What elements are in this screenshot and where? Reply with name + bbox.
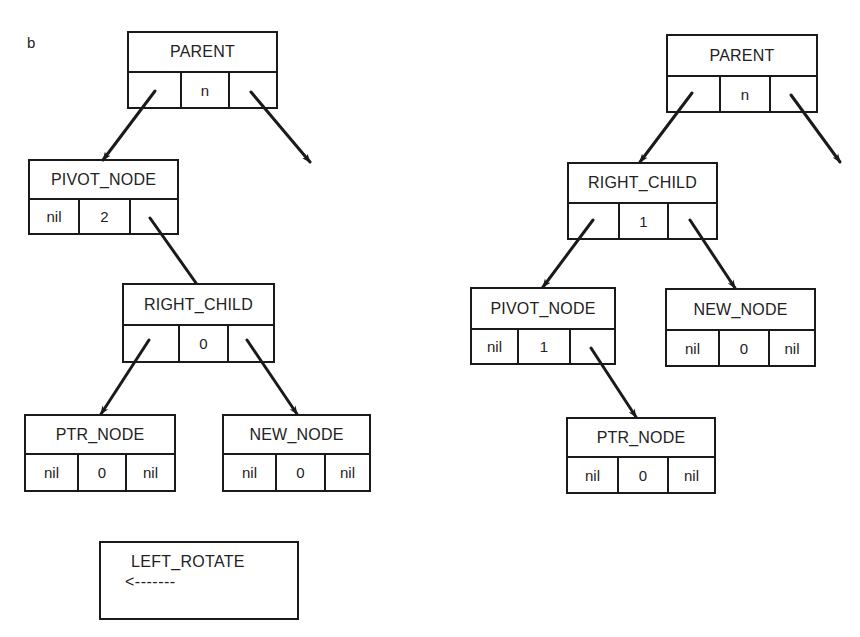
right-pointer-cell — [569, 330, 614, 363]
left-pointer-cell: nil — [26, 455, 77, 490]
balance-cell: 0 — [617, 458, 667, 492]
node-title: NEW_NODE — [224, 416, 369, 455]
right-pointer-cell: nil — [125, 455, 174, 490]
node-title: PTR_NODE — [568, 419, 714, 458]
after-ptr-node: PTR_NODE nil 0 nil — [566, 417, 716, 494]
right-pointer-cell — [227, 326, 273, 361]
node-title: PTR_NODE — [26, 416, 174, 455]
before-pivot-node: PIVOT_NODE nil 2 — [28, 159, 179, 235]
balance-cell: n — [719, 77, 769, 111]
right-pointer-cell — [769, 77, 816, 111]
after-parent-node: PARENT n — [666, 34, 818, 113]
before-ptr-node: PTR_NODE nil 0 nil — [24, 414, 176, 492]
node-title: RIGHT_CHILD — [124, 285, 273, 326]
after-right-child-node: RIGHT_CHILD 1 — [567, 162, 718, 240]
left-pointer-cell — [129, 73, 180, 107]
balance-cell: n — [180, 73, 228, 107]
before-new-node: NEW_NODE nil 0 nil — [222, 414, 371, 492]
balance-cell: 0 — [275, 455, 324, 490]
right-pointer-cell — [667, 204, 716, 238]
left-rotate-operation-box: LEFT_ROTATE <------- — [99, 541, 299, 620]
balance-cell: 0 — [718, 331, 768, 365]
left-pointer-cell — [124, 326, 178, 361]
node-title: PARENT — [129, 33, 276, 73]
left-pointer-cell: nil — [224, 455, 275, 490]
right-pointer-cell — [129, 200, 177, 233]
node-title: PARENT — [668, 36, 816, 77]
balance-cell: 1 — [618, 204, 667, 238]
right-pointer-cell: nil — [768, 331, 814, 365]
before-right-child-node: RIGHT_CHILD 0 — [122, 283, 275, 363]
node-title: RIGHT_CHILD — [569, 164, 716, 204]
left-arrow-icon: <------- — [125, 573, 297, 591]
left-pointer-cell: nil — [472, 330, 517, 363]
left-pointer-cell — [569, 204, 618, 238]
after-pivot-node: PIVOT_NODE nil 1 — [470, 287, 616, 365]
balance-cell: 1 — [517, 330, 569, 363]
node-title: PIVOT_NODE — [472, 289, 614, 330]
balance-cell: 2 — [78, 200, 129, 233]
right-pointer-cell: nil — [324, 455, 369, 490]
before-parent-node: PARENT n — [127, 31, 278, 109]
left-pointer-cell — [668, 77, 719, 111]
right-pointer-cell — [228, 73, 276, 107]
left-pointer-cell: nil — [667, 331, 718, 365]
node-title: NEW_NODE — [667, 290, 814, 331]
balance-cell: 0 — [178, 326, 227, 361]
panel-label: b — [27, 34, 35, 51]
left-pointer-cell: nil — [30, 200, 78, 233]
right-pointer-cell: nil — [667, 458, 714, 492]
left-pointer-cell: nil — [568, 458, 617, 492]
operation-name: LEFT_ROTATE — [131, 553, 297, 571]
balance-cell: 0 — [77, 455, 125, 490]
after-new-node: NEW_NODE nil 0 nil — [665, 288, 816, 367]
node-title: PIVOT_NODE — [30, 161, 177, 200]
